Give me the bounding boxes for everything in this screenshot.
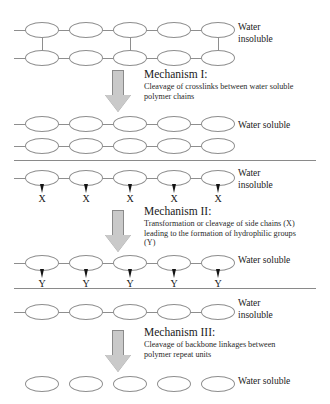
repeat-unit-bead (25, 376, 59, 392)
transformation-arrow-icon (105, 210, 131, 252)
side-chain-label: X (212, 193, 224, 204)
side-chain-y: Y (124, 269, 136, 289)
repeat-unit-bead (201, 376, 235, 392)
mechanism-title: Mechanism II: (144, 205, 296, 218)
polymer-chain-soluble-bottom (14, 138, 224, 154)
state-label-water-insoluble: Water insoluble (238, 22, 273, 45)
repeat-unit-bead (157, 116, 191, 132)
side-chain-y: Y (80, 269, 92, 289)
side-chain-wedge-icon (128, 184, 132, 193)
side-chain-wedge-icon (40, 269, 44, 278)
side-chain-y: Y (36, 269, 48, 289)
polymer-chain-crosslinked-bottom (14, 50, 224, 66)
arrow-head (105, 235, 131, 252)
side-chain-wedge-icon (172, 269, 176, 278)
arrow-shaft (112, 70, 124, 96)
repeat-unit-bead (201, 22, 235, 38)
repeat-unit-bead (113, 138, 147, 154)
side-chain-wedge-icon (172, 184, 176, 193)
repeat-unit-bead (113, 50, 147, 66)
side-chain-x: X (36, 184, 48, 204)
side-chain-wedge-icon (40, 184, 44, 193)
polymer-chain-insoluble (14, 304, 224, 320)
repeat-unit-bead (201, 116, 235, 132)
side-chain-wedge-icon (216, 184, 220, 193)
repeat-unit-bead (157, 50, 191, 66)
repeat-unit-bead (157, 376, 191, 392)
side-chain-x: X (124, 184, 136, 204)
mechanism-body: Cleavage of crosslinks between water sol… (144, 82, 296, 101)
repeat-unit-bead (25, 22, 59, 38)
repeat-unit-bead (157, 22, 191, 38)
side-chain-label: X (36, 193, 48, 204)
fragmented-repeat-units (14, 376, 224, 392)
repeat-unit-bead (69, 22, 103, 38)
polymer-chain-soluble-top (14, 116, 224, 132)
mechanism-body: Transformation or cleavage of side chain… (144, 219, 296, 248)
side-chain-x: X (80, 184, 92, 204)
side-chain-wedge-icon (84, 269, 88, 278)
arrow-head (105, 355, 131, 372)
repeat-unit-bead (25, 116, 59, 132)
panel-mechanism-1: Water insoluble Mechanism I: Cleavage of… (0, 0, 330, 160)
mechanism-2-caption: Mechanism II: Transformation or cleavage… (144, 205, 296, 248)
state-label-water-soluble: Water soluble (238, 255, 290, 267)
repeat-unit-bead (25, 304, 59, 320)
repeat-unit-bead (201, 50, 235, 66)
repeat-unit-bead (25, 50, 59, 66)
repeat-unit-bead (113, 304, 147, 320)
repeat-unit-bead (113, 22, 147, 38)
mechanism-1-caption: Mechanism I: Cleavage of crosslinks betw… (144, 68, 296, 101)
repeat-unit-bead (157, 138, 191, 154)
panel-mechanism-3: Water insoluble Mechanism III: Cleavage … (0, 288, 330, 404)
side-chain-label: X (168, 193, 180, 204)
repeat-unit-bead (201, 138, 235, 154)
repeat-unit-bead (157, 304, 191, 320)
side-chain-wedge-icon (128, 269, 132, 278)
side-chain-y: Y (212, 269, 224, 289)
arrow-shaft (112, 210, 124, 236)
mechanism-body: Cleavage of backbone linkages between po… (144, 340, 296, 359)
side-chain-wedge-icon (216, 269, 220, 278)
side-chain-wedge-icon (84, 184, 88, 193)
arrow-head (105, 95, 131, 112)
transformation-arrow-icon (105, 70, 131, 112)
side-chain-label: X (124, 193, 136, 204)
state-label-water-insoluble: Water insoluble (238, 168, 273, 191)
polymer-solubilization-figure: Water insoluble Mechanism I: Cleavage of… (0, 0, 330, 404)
side-chain-y: Y (168, 269, 180, 289)
repeat-unit-bead (113, 376, 147, 392)
mechanism-title: Mechanism III: (144, 326, 296, 339)
state-label-water-soluble: Water soluble (238, 376, 290, 388)
side-chain-x: X (168, 184, 180, 204)
repeat-unit-bead (69, 376, 103, 392)
repeat-unit-bead (113, 116, 147, 132)
mechanism-title: Mechanism I: (144, 68, 296, 81)
transformation-arrow-icon (105, 330, 131, 372)
side-chain-x: X (212, 184, 224, 204)
repeat-unit-bead (69, 116, 103, 132)
repeat-unit-bead (69, 138, 103, 154)
side-chain-label: X (80, 193, 92, 204)
repeat-unit-bead (69, 304, 103, 320)
state-label-water-soluble: Water soluble (238, 120, 290, 132)
panel-mechanism-2: X X X X X Water insoluble Mechanism II: … (0, 160, 330, 288)
polymer-chain-crosslinked-top (14, 22, 224, 38)
repeat-unit-bead (69, 50, 103, 66)
state-label-water-insoluble: Water insoluble (238, 298, 273, 321)
repeat-unit-bead (25, 138, 59, 154)
arrow-shaft (112, 330, 124, 356)
mechanism-3-caption: Mechanism III: Cleavage of backbone link… (144, 326, 296, 359)
repeat-unit-bead (201, 304, 235, 320)
